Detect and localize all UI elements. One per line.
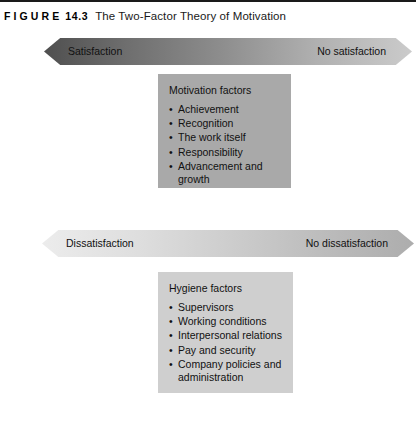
satisfaction-continuum-arrow: Satisfaction No satisfaction [44,38,412,65]
list-item: Achievement [169,103,282,116]
list-item: The work itself [169,131,282,144]
motivation-factors-box: Motivation factors Achievement Recogniti… [158,74,291,188]
satisfaction-left-label: Satisfaction [68,38,122,65]
list-item: Recognition [169,117,282,130]
motivation-factors-list: Achievement Recognition The work itself … [169,103,282,186]
list-item: Company policies and administration [169,358,284,384]
list-item: Supervisors [169,301,284,314]
motivation-factors-heading: Motivation factors [169,84,282,96]
satisfaction-right-label: No satisfaction [317,38,386,65]
list-item: Working conditions [169,315,284,328]
figure-label: FIGURE [4,10,62,22]
dissatisfaction-left-label: Dissatisfaction [66,230,134,257]
dissatisfaction-continuum-arrow: Dissatisfaction No dissatisfaction [42,230,414,257]
list-item: Interpersonal relations [169,329,284,342]
figure-number: 14.3 [65,10,88,22]
list-item: Advancement and growth [169,160,282,186]
figure-title: The Two-Factor Theory of Motivation [95,10,286,22]
hygiene-factors-box: Hygiene factors Supervisors Working cond… [158,272,293,393]
list-item: Pay and security [169,344,284,357]
header-rule [0,0,416,2]
hygiene-factors-heading: Hygiene factors [169,282,284,294]
dissatisfaction-right-label: No dissatisfaction [306,230,388,257]
hygiene-factors-list: Supervisors Working conditions Interpers… [169,301,284,384]
list-item: Responsibility [169,146,282,159]
figure-caption: FIGURE14.3The Two-Factor Theory of Motiv… [4,6,412,22]
